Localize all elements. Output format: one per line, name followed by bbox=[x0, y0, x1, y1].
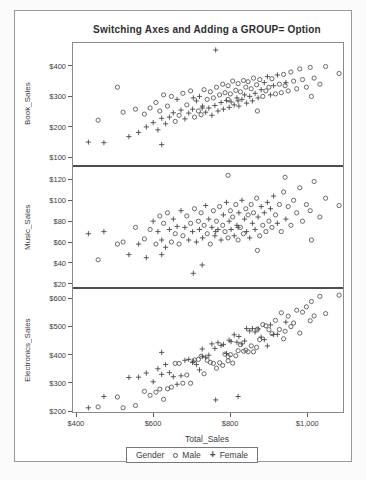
x-tick-mark bbox=[153, 413, 154, 417]
scatter-point bbox=[268, 322, 273, 327]
scatter-point bbox=[236, 349, 240, 353]
scatter-point bbox=[255, 196, 259, 200]
scatter-point bbox=[148, 106, 152, 110]
legend-entry-male: Male bbox=[173, 450, 200, 460]
y-tick-label: $200 bbox=[32, 122, 66, 131]
scatter-point bbox=[186, 111, 191, 116]
scatter-point bbox=[267, 85, 271, 89]
scatter-point bbox=[211, 96, 215, 100]
scatter-point bbox=[206, 217, 211, 222]
scatter-point bbox=[185, 373, 189, 377]
scatter-point bbox=[163, 121, 168, 126]
x-tick-label: $800 bbox=[222, 419, 239, 428]
scatter-point bbox=[283, 217, 288, 222]
scatter-point bbox=[212, 103, 217, 108]
y-tick-mark bbox=[68, 262, 72, 263]
scatter-point bbox=[169, 240, 173, 244]
scatter-point bbox=[181, 91, 185, 95]
x-tick-label: $400 bbox=[68, 419, 85, 428]
scatter-point bbox=[167, 227, 172, 232]
scatter-point bbox=[282, 337, 286, 341]
scatter-point bbox=[244, 229, 249, 234]
scatter-point bbox=[261, 223, 265, 227]
scatter-point bbox=[142, 112, 146, 116]
scatter-point bbox=[177, 113, 181, 117]
scatter-point bbox=[226, 236, 230, 240]
y-tick-label: $400 bbox=[32, 350, 66, 359]
scatter-point bbox=[277, 202, 281, 206]
scatter-point bbox=[186, 237, 191, 242]
scatter-point bbox=[337, 293, 341, 297]
scatter-point bbox=[155, 366, 160, 371]
scatter-point bbox=[221, 342, 226, 347]
scatter-point bbox=[236, 82, 240, 86]
scatter-point bbox=[231, 79, 235, 83]
x-axis: $400$600$800$1,000 bbox=[72, 413, 342, 431]
scatter-point bbox=[173, 232, 177, 236]
scatter-point bbox=[181, 234, 185, 238]
scatter-point bbox=[304, 305, 308, 309]
y-tick-mark bbox=[68, 157, 72, 158]
scatter-point bbox=[212, 233, 217, 238]
legend-title: Gender bbox=[136, 450, 164, 460]
x-tick-mark bbox=[230, 413, 231, 417]
scatter-point bbox=[234, 88, 238, 92]
scatter-point bbox=[236, 238, 240, 242]
scatter-point bbox=[96, 118, 100, 122]
scatter-point bbox=[250, 221, 255, 226]
scatter-point bbox=[283, 175, 287, 179]
scatter-point bbox=[242, 217, 247, 222]
figure-border: Switching Axes and Adding a GROUP= Optio… bbox=[14, 10, 352, 462]
scatter-point bbox=[259, 204, 264, 209]
scatter-point bbox=[308, 209, 312, 213]
scatter-point bbox=[115, 395, 119, 399]
scatter-point bbox=[175, 224, 180, 229]
scatter-point bbox=[261, 94, 265, 98]
scatter-point bbox=[142, 237, 146, 241]
scatter-point bbox=[227, 105, 232, 110]
scatter-point bbox=[246, 213, 250, 217]
scatter-point bbox=[213, 397, 218, 402]
scatter-point bbox=[298, 67, 302, 71]
scatter-point bbox=[223, 230, 227, 234]
scatter-point bbox=[205, 97, 209, 101]
scatter-point bbox=[267, 219, 271, 223]
scatter-point bbox=[279, 230, 283, 234]
scatter-point bbox=[289, 70, 293, 74]
scatter-point bbox=[214, 219, 218, 223]
scatter-point bbox=[244, 326, 249, 331]
y-tick-mark bbox=[68, 96, 72, 97]
scatter-point bbox=[209, 341, 214, 346]
scatter-point bbox=[101, 229, 106, 234]
scatter-point bbox=[219, 100, 224, 105]
scatter-point bbox=[255, 345, 259, 349]
scatter-point bbox=[186, 357, 191, 362]
scatter-point bbox=[182, 116, 187, 121]
scatter-point bbox=[86, 405, 91, 410]
y-tick-label: $20 bbox=[32, 279, 66, 288]
scatter-point bbox=[159, 350, 164, 355]
scatter-point bbox=[205, 232, 209, 236]
scatter-point bbox=[282, 190, 286, 194]
scatter-point bbox=[271, 194, 276, 199]
scatter-point bbox=[121, 110, 125, 114]
scatter-point bbox=[177, 242, 181, 246]
scatter-point bbox=[165, 211, 169, 215]
scatter-point bbox=[226, 173, 230, 177]
scatter-point bbox=[309, 238, 313, 242]
scatter-point bbox=[286, 205, 290, 209]
scatter-point bbox=[234, 354, 238, 358]
scatter-point bbox=[218, 93, 222, 97]
scatter-point bbox=[86, 140, 91, 145]
scatter-graph-wall: Book_Sales$100$200$300$400Music_Sales$20… bbox=[72, 42, 344, 413]
y-tick-mark bbox=[68, 126, 72, 127]
scatter-point bbox=[270, 77, 274, 81]
scatter-point bbox=[202, 88, 206, 92]
scatter-point bbox=[309, 94, 313, 98]
scatter-point bbox=[232, 233, 237, 238]
scatter-point bbox=[200, 235, 205, 240]
scatter-point bbox=[226, 84, 230, 88]
y-tick-label: $100 bbox=[32, 153, 66, 162]
scatter-point bbox=[262, 80, 267, 85]
scatter-point bbox=[144, 370, 149, 375]
